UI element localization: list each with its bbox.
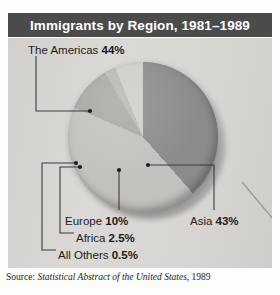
chart-title-bar: Immigrants by Region, 1981–1989 [8,13,272,37]
figure-immigrants-by-region: Immigrants by Region, 1981–1989 [0,0,280,295]
source-work-title: Statistical Abstract of the United State… [37,272,186,282]
label-europe: Europe 10% [65,215,128,227]
label-europe-pct: 10% [105,215,128,227]
source-year: , 1989 [187,272,211,282]
label-the-americas-name: The Americas [28,44,98,56]
pie-chart [8,38,272,268]
label-asia: Asia 43% [190,215,239,227]
label-all-others: All Others 0.5% [58,249,138,261]
label-all-others-name: All Others [58,249,109,261]
page-title: Immigrants by Region, 1981–1989 [30,18,250,33]
label-the-americas-pct: 44% [102,44,125,56]
label-africa-name: Africa [76,232,105,244]
source-note: Source: Statistical Abstract of the Unit… [6,272,276,282]
chart-panel: The Americas 44% Asia 43% Europe 10% Afr… [8,38,272,268]
label-asia-pct: 43% [216,215,239,227]
label-europe-name: Europe [65,215,102,227]
label-africa-pct: 2.5% [109,232,135,244]
pie-slices [68,62,218,212]
label-all-others-pct: 0.5% [112,249,138,261]
label-africa: Africa 2.5% [76,232,135,244]
label-asia-name: Asia [190,215,212,227]
label-the-americas: The Americas 44% [28,44,125,56]
source-prefix: Source: [6,272,37,282]
